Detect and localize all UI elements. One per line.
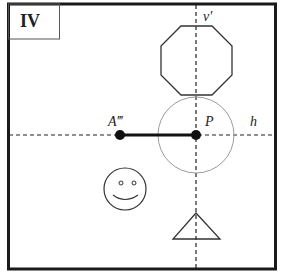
point-p-label: P <box>204 114 214 129</box>
vertical-axis-label: v′ <box>203 9 213 24</box>
point-p <box>191 130 201 140</box>
smiley-face-shape <box>104 168 146 210</box>
reflection-diagram: IV v′ h A‴ P <box>0 0 282 272</box>
panel-label: IV <box>20 11 40 31</box>
horizontal-axis-label: h <box>250 114 257 129</box>
point-a <box>115 130 125 140</box>
point-a-label: A‴ <box>107 114 124 129</box>
